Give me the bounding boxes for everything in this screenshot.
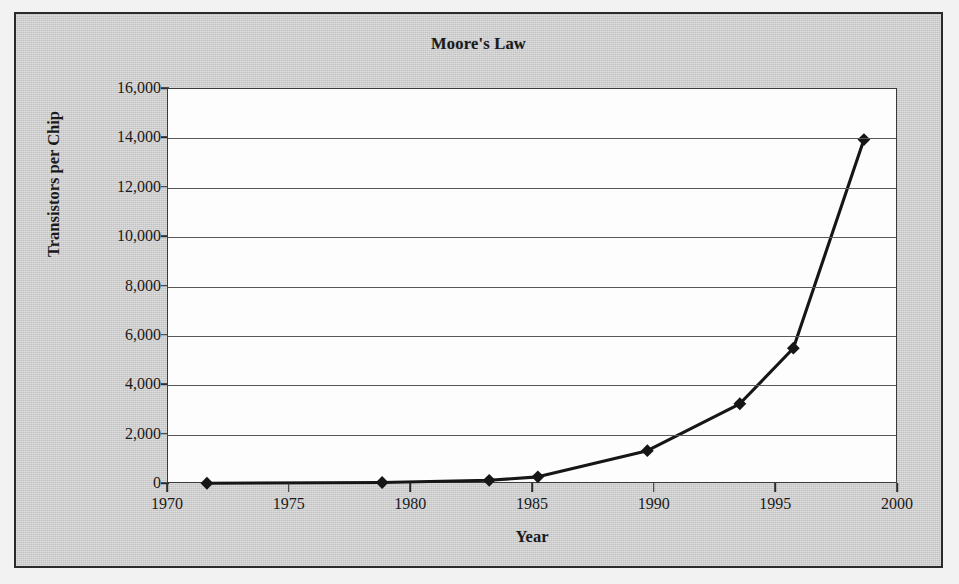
gridline (168, 188, 896, 189)
series-line (207, 140, 864, 484)
y-axis-tick-label: 12,000 (69, 178, 161, 196)
gridline (168, 435, 896, 436)
x-axis-tick-mark (653, 483, 655, 492)
y-axis-tick-label: 2,000 (69, 425, 161, 443)
x-axis-tick-label: 2000 (852, 495, 942, 513)
x-axis-tick-mark (775, 483, 777, 492)
x-axis-tick-mark (896, 483, 898, 492)
data-point-marker (858, 133, 871, 146)
y-axis-tick-label: 8,000 (69, 277, 161, 295)
chart-frame: Moore's Law Transistors per Chip 02,0004… (14, 12, 943, 568)
x-axis-tick-label: 1975 (244, 495, 334, 513)
x-axis-title: Year (167, 527, 897, 547)
x-axis-tick-label: 1985 (487, 495, 577, 513)
x-axis-tick-mark (288, 483, 290, 492)
scanned-page: Moore's Law Transistors per Chip 02,0004… (0, 0, 959, 584)
x-axis-tick-mark (166, 483, 168, 492)
y-axis-tick-label: 10,000 (69, 227, 161, 245)
gridline (168, 287, 896, 288)
data-point-marker (531, 470, 544, 483)
gridline (168, 138, 896, 139)
y-axis-tick-label: 0 (69, 474, 161, 492)
x-axis: Year 1970197519801985199019952000 (167, 483, 897, 543)
y-axis-tick-labels: 02,0004,0006,0008,00010,00012,00014,0001… (61, 88, 161, 483)
y-axis-tick-label: 6,000 (69, 326, 161, 344)
x-axis-tick-label: 1990 (609, 495, 699, 513)
x-axis-tick-label: 1995 (730, 495, 820, 513)
gridline (168, 336, 896, 337)
x-axis-tick-mark (531, 483, 533, 492)
gridline (168, 237, 896, 238)
y-axis-tick-label: 16,000 (69, 79, 161, 97)
chart-title: Moore's Law (16, 34, 941, 54)
x-axis-tick-mark (410, 483, 412, 492)
gridline (168, 385, 896, 386)
x-axis-tick-label: 1980 (365, 495, 455, 513)
y-axis-tick-label: 14,000 (69, 128, 161, 146)
data-point-marker (641, 444, 654, 457)
x-axis-tick-label: 1970 (122, 495, 212, 513)
y-axis-tick-label: 4,000 (69, 375, 161, 393)
plot-area (167, 88, 897, 483)
